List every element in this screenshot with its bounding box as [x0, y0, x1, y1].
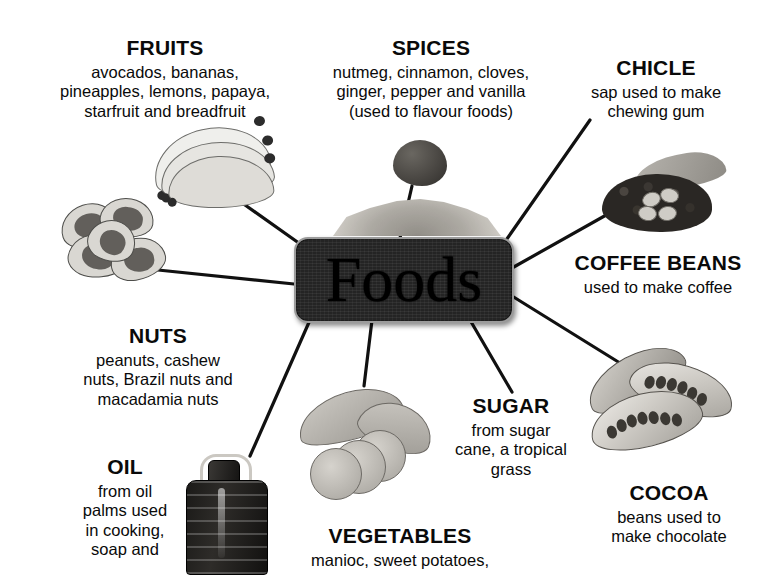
callout-coffee-beans-heading: COFFEE BEANS	[558, 251, 758, 276]
callout-sugar[interactable]: SUGAR from sugar cane, a tropical grass	[437, 394, 585, 479]
center-node-foods[interactable]: Foods	[294, 237, 514, 323]
callout-nuts-line-1: peanuts, cashew	[52, 351, 264, 370]
cocoa-pods-photo	[583, 347, 735, 459]
callout-sugar-heading: SUGAR	[437, 394, 585, 419]
connector-vegetables	[364, 320, 372, 386]
ground-spice-pile	[333, 186, 501, 236]
callout-sugar-line-3: grass	[437, 460, 585, 479]
callout-oil-line-1: from oil	[62, 482, 188, 501]
callout-oil-line-3: in cooking,	[62, 521, 188, 540]
connector-nuts	[158, 270, 294, 284]
nutmeg-and-ground-spice-photo	[333, 138, 501, 236]
callout-fruits[interactable]: FRUITS avocados, bananas, pineapples, le…	[20, 36, 310, 121]
callout-oil[interactable]: OIL from oil palms used in cooking, soap…	[62, 455, 188, 560]
callout-spices-line-2: ginger, pepper and vanilla	[312, 82, 550, 101]
sweet-potatoes-photo	[296, 382, 436, 504]
callout-chicle[interactable]: CHICLE sap used to make chewing gum	[556, 56, 756, 122]
callout-fruits-heading: FRUITS	[20, 36, 310, 61]
callout-oil-line-4: soap and	[62, 540, 188, 559]
callout-chicle-heading: CHICLE	[556, 56, 756, 81]
callout-coffee-beans-line-1: used to make coffee	[558, 278, 758, 297]
center-node-label: Foods	[326, 248, 483, 312]
brazil-nuts-photo	[60, 198, 176, 292]
callout-spices-line-3: (used to flavour foods)	[312, 102, 550, 121]
bottle-body	[186, 480, 268, 575]
callout-sugar-line-2: cane, a tropical	[437, 440, 585, 459]
callout-fruits-line-3: starfruit and breadfruit	[20, 102, 310, 121]
callout-vegetables[interactable]: VEGETABLES manioc, sweet potatoes,	[275, 524, 525, 570]
callout-sugar-line-1: from sugar	[437, 421, 585, 440]
callout-chicle-line-2: chewing gum	[556, 102, 756, 121]
nutmeg-seed	[393, 140, 447, 186]
callout-cocoa-line-2: make chocolate	[580, 527, 758, 546]
callout-cocoa-line-1: beans used to	[580, 508, 758, 527]
connector-sugar	[470, 320, 512, 392]
callout-coffee-beans[interactable]: COFFEE BEANS used to make coffee	[558, 251, 758, 297]
callout-nuts-line-3: macadamia nuts	[52, 390, 264, 409]
callout-cocoa-heading: COCOA	[580, 481, 758, 506]
callout-cocoa[interactable]: COCOA beans used to make chocolate	[580, 481, 758, 547]
callout-spices-line-1: nutmeg, cinnamon, cloves,	[312, 63, 550, 82]
callout-nuts-line-2: nuts, Brazil nuts and	[52, 370, 264, 389]
bottle-highlight	[218, 488, 225, 558]
callout-nuts-heading: NUTS	[52, 324, 264, 349]
connector-chicle	[502, 120, 590, 246]
callout-chicle-line-1: sap used to make	[556, 83, 756, 102]
callout-oil-heading: OIL	[62, 455, 188, 480]
callout-fruits-line-2: pineapples, lemons, papaya,	[20, 82, 310, 101]
callout-spices-heading: SPICES	[312, 36, 550, 61]
coffee-beans-photo	[598, 148, 726, 236]
callout-spices[interactable]: SPICES nutmeg, cinnamon, cloves, ginger,…	[312, 36, 550, 121]
callout-fruits-line-1: avocados, bananas,	[20, 63, 310, 82]
callout-vegetables-line-1: manioc, sweet potatoes,	[275, 551, 525, 570]
callout-oil-line-2: palms used	[62, 501, 188, 520]
callout-vegetables-heading: VEGETABLES	[275, 524, 525, 549]
oil-bottle-photo	[178, 452, 274, 573]
callout-nuts[interactable]: NUTS peanuts, cashew nuts, Brazil nuts a…	[52, 324, 264, 409]
